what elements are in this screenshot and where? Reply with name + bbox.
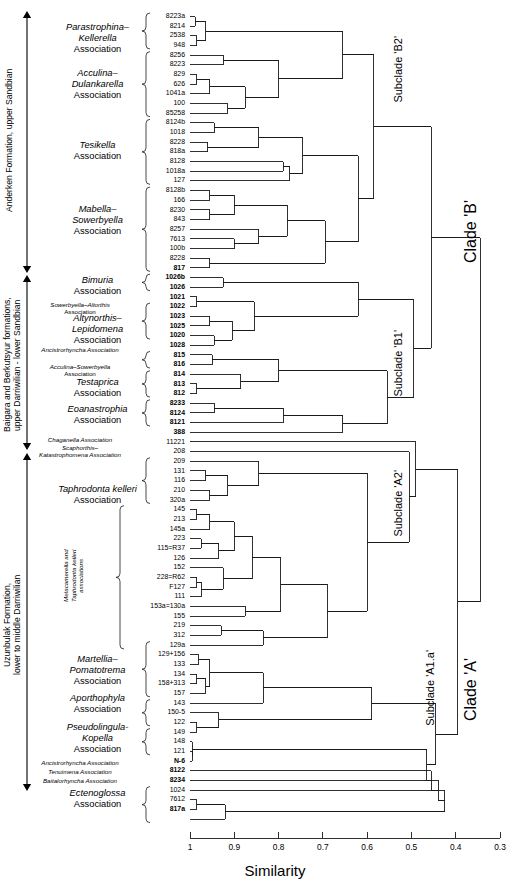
leaf-label: 129+156 [115, 651, 185, 658]
leaf-label: 1020 [115, 332, 185, 339]
leaf-label: 8128 [115, 158, 185, 165]
leaf-label: 126 [115, 555, 185, 562]
leaf-label: 131 [115, 468, 185, 475]
leaf-label: 8128b [115, 187, 185, 194]
leaf-label: 1022 [115, 303, 185, 310]
axis-tick-label: 0.7 [303, 842, 343, 852]
leaf-label: 7613 [115, 236, 185, 243]
leaf-label: 85258 [115, 110, 185, 117]
axis-tick-label: 0.5 [391, 842, 431, 852]
leaf-label: 116 [115, 477, 185, 484]
leaf-label: 815 [115, 352, 185, 359]
leaf-label: 166 [115, 197, 185, 204]
leaf-label: 8124b [115, 119, 185, 126]
leaf-label: 813 [115, 381, 185, 388]
leaf-label: 219 [115, 622, 185, 629]
clade-label-subclade-a2: Subclade 'A2' [392, 470, 404, 537]
clade-label-clade-a: Clade 'A' [462, 658, 480, 721]
leaf-label: 153a=130a [115, 603, 185, 610]
axis-tick-label: 0.4 [436, 842, 476, 852]
leaf-label: 1026 [115, 284, 185, 291]
leaf-label: 8230 [115, 207, 185, 214]
leaf-label: 8228 [115, 255, 185, 262]
leaf-label: 8214 [115, 23, 185, 30]
leaf-label: 149 [115, 729, 185, 736]
leaf-label: 1018 [115, 129, 185, 136]
axis-tick-label: 1 [170, 842, 210, 852]
leaf-label: 8121 [115, 419, 185, 426]
leaf-label: 817a [115, 806, 185, 813]
axis-tick-label: 0.3 [480, 842, 518, 852]
leaf-label: 209 [115, 458, 185, 465]
leaf-label: 157 [115, 690, 185, 697]
leaf-label: 208 [115, 448, 185, 455]
leaf-label: 145 [115, 506, 185, 513]
leaf-label: 133 [115, 661, 185, 668]
axis-title: Similarity [200, 862, 350, 879]
leaf-label: 158+313 [115, 680, 185, 687]
leaf-label: 1025 [115, 323, 185, 330]
leaf-label: 213 [115, 516, 185, 523]
leaf-label: 312 [115, 632, 185, 639]
leaf-label: 1028 [115, 342, 185, 349]
leaf-label: N-6 [115, 758, 185, 765]
leaf-label: 1023 [115, 313, 185, 320]
leaf-label: 1041a [115, 90, 185, 97]
leaf-label: 8223 [115, 61, 185, 68]
leaf-label: 817 [115, 265, 185, 272]
leaf-label: 134 [115, 671, 185, 678]
clade-label-clade-b: Clade 'B' [462, 200, 480, 263]
leaf-label: 1024 [115, 787, 185, 794]
leaf-label: 948 [115, 42, 185, 49]
leaf-label: 388 [115, 429, 185, 436]
leaf-label: 148 [115, 738, 185, 745]
axis-tick-label: 0.6 [347, 842, 387, 852]
leaf-label: 818a [115, 148, 185, 155]
formation-label-anderken: Anderken Formation, upper Sandbian [4, 8, 20, 273]
leaf-label: 150-5 [115, 709, 185, 716]
leaf-label: 8256 [115, 52, 185, 59]
leaf-label: 115=R37 [115, 545, 185, 552]
leaf-label: 2538 [115, 32, 185, 39]
leaf-label: 129a [115, 642, 185, 649]
leaf-label: 223 [115, 535, 185, 542]
leaf-label: 814 [115, 371, 185, 378]
leaf-label: 11221 [115, 439, 185, 446]
axis-tick-label: 0.8 [259, 842, 299, 852]
leaf-label: 8233 [115, 400, 185, 407]
leaf-label: 7612 [115, 796, 185, 803]
leaf-label: 152 [115, 564, 185, 571]
leaf-label: 210 [115, 487, 185, 494]
leaf-label: 127 [115, 177, 185, 184]
leaf-label: 1026b [115, 274, 185, 281]
dendrogram-figure: Anderken Formation, upper Sandbian Baiga… [0, 0, 518, 884]
leaf-label: 1018a [115, 168, 185, 175]
leaf-label: 100 [115, 100, 185, 107]
leaf-label: 1021 [115, 294, 185, 301]
leaf-label: 8223a [115, 13, 185, 20]
leaf-label: 816 [115, 361, 185, 368]
leaf-label: 111 [115, 593, 185, 600]
leaf-label: 122 [115, 719, 185, 726]
leaf-label: F127 [115, 584, 185, 591]
leaf-label: 843 [115, 216, 185, 223]
leaf-label: 626 [115, 81, 185, 88]
clade-label-subclade-a1a: Subclade 'A1.a' [424, 650, 436, 726]
leaf-label: 829 [115, 71, 185, 78]
leaf-label: 8234 [115, 777, 185, 784]
leaf-label: 320a [115, 497, 185, 504]
leaf-label: 8124 [115, 410, 185, 417]
formation-range-anderken [24, 12, 30, 272]
leaf-label: 8257 [115, 226, 185, 233]
leaf-label: 8228 [115, 139, 185, 146]
clade-label-subclade-b2: Subclade 'B2' [392, 36, 404, 103]
formation-label-baigara: Baigara and Berkutsyur formations, upper… [2, 280, 22, 450]
leaf-label: 100b [115, 245, 185, 252]
association-bracket-martellia-pomatotrema [142, 642, 150, 697]
clade-label-subclade-b1: Subclade 'B1' [392, 330, 404, 397]
leaf-label: 145a [115, 526, 185, 533]
formation-label-uzunbulak: Uzunbulak Formation, lower to middle Dar… [2, 460, 22, 790]
axis-tick-label: 0.9 [214, 842, 254, 852]
leaf-label: 121 [115, 748, 185, 755]
association-label-metacamerella-taphrodonta: Metacamerella and Taphrodonta kelleri as… [62, 523, 92, 628]
